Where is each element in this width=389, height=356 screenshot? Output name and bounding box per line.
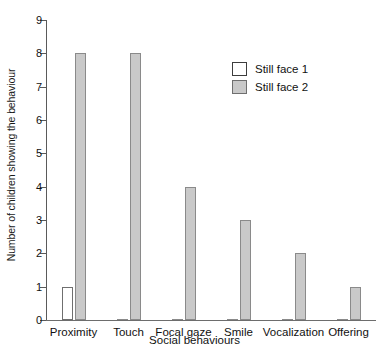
bar: [172, 319, 183, 321]
bar: [185, 187, 196, 320]
bar-chart: Number of children showing the behaviour…: [0, 0, 389, 356]
legend-swatch: [232, 80, 247, 94]
legend-label: Still face 2: [255, 81, 308, 93]
y-axis-tick-label: 2: [36, 245, 42, 261]
y-axis-tick-label: 1: [36, 279, 42, 295]
y-axis-tick-label: 7: [36, 79, 42, 95]
bar: [337, 319, 348, 321]
y-axis-title-text: Number of children showing the behaviour: [5, 69, 17, 262]
bar: [75, 53, 86, 320]
bar: [240, 220, 251, 320]
legend-item: Still face 1: [232, 62, 308, 76]
x-axis-line: [46, 320, 376, 321]
bar: [62, 287, 73, 320]
plot-area: 0123456789 ProximityTouchFocal gazeSmile…: [46, 20, 376, 320]
y-axis-line: [46, 20, 47, 320]
y-axis-tick-label: 8: [36, 45, 42, 61]
bar: [282, 319, 293, 321]
y-axis-tick-label: 6: [36, 112, 42, 128]
y-axis-title: Number of children showing the behaviour: [0, 0, 22, 330]
y-axis-tick-label: 4: [36, 179, 42, 195]
legend-label: Still face 1: [255, 63, 308, 75]
bar: [117, 319, 128, 321]
legend-item: Still face 2: [232, 80, 308, 94]
bar: [295, 253, 306, 320]
legend-swatch: [232, 62, 247, 76]
x-axis-title: Social behaviours: [0, 334, 389, 346]
y-axis-tick-label: 5: [36, 145, 42, 161]
bar: [350, 287, 361, 320]
y-axis-tick-label: 0: [36, 312, 42, 328]
chart-legend: Still face 1Still face 2: [232, 62, 308, 98]
bar: [227, 319, 238, 321]
y-axis-tick-label: 9: [36, 12, 42, 28]
bar: [130, 53, 141, 320]
y-axis-tick-label: 3: [36, 212, 42, 228]
